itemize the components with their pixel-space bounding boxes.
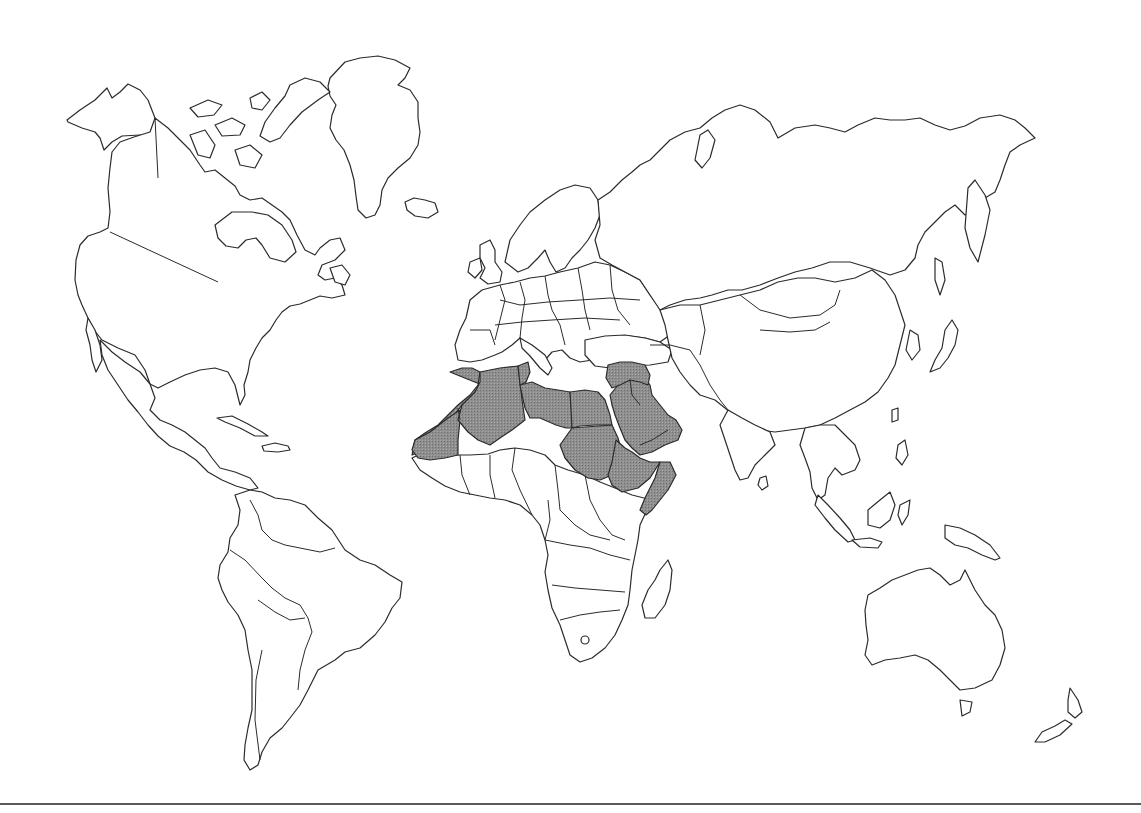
arctic-islands-5 [235,145,262,168]
south-america-land [218,490,402,770]
region-mauritania [412,410,460,460]
new-guinea [945,525,1000,560]
iceland [405,198,438,218]
arctic-islands-1 [190,100,222,117]
scandinavia [505,185,600,272]
sri-lanka [758,476,768,490]
arctic-islands-4 [190,130,215,158]
oceania [865,568,1082,742]
philippines [896,440,908,465]
tasmania [960,700,972,716]
uk [480,240,502,284]
arctic-islands-3 [250,92,270,110]
arctic-islands-2 [215,118,245,136]
new-zealand-north [1068,688,1082,718]
region-egypt [570,390,612,428]
southeast-asia [800,425,860,500]
south-america [218,490,402,770]
new-zealand-south [1035,720,1072,742]
korea [906,330,920,360]
sulawesi [898,500,910,525]
australia [865,568,1005,690]
hispaniola [262,443,290,452]
sumatra [815,495,855,542]
region-libya [520,382,572,428]
sakhalin [935,258,945,295]
ireland [468,258,482,278]
java [852,538,882,548]
bottom-rule [0,803,1141,805]
baffin-island [260,78,330,142]
taiwan [892,408,898,422]
cuba [217,416,268,436]
japan [930,320,958,372]
greenland [328,56,420,218]
region-tunisia [518,362,530,385]
lesotho [581,636,589,644]
world-map [0,0,1141,813]
borneo [868,492,895,528]
madagascar [642,560,672,618]
north-america [67,56,438,490]
